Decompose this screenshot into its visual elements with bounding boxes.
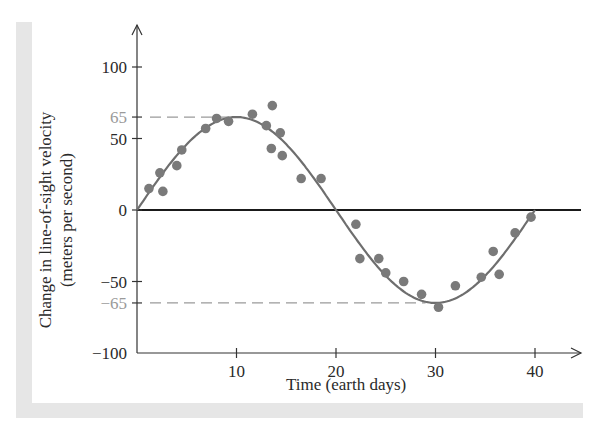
data-point <box>488 247 498 257</box>
data-point <box>355 254 365 264</box>
data-point <box>144 184 154 194</box>
data-point <box>158 187 168 197</box>
data-point <box>316 174 326 184</box>
data-point <box>262 121 272 131</box>
y-tick-label: −100 <box>92 344 127 363</box>
data-point <box>451 281 461 291</box>
x-axis-label: Time (earth days) <box>286 375 406 395</box>
plot-area: 10065500−50−65−10010203040 <box>0 0 608 434</box>
data-point <box>275 128 285 138</box>
x-tick-label: 40 <box>527 362 544 381</box>
y-tick-label: 65 <box>110 108 127 127</box>
reference-lines <box>137 117 581 303</box>
data-point <box>510 228 520 238</box>
y-tick-label: 50 <box>110 130 127 149</box>
data-point <box>399 277 409 287</box>
y-axis-label-line1: Change in line-of-sight velocity <box>35 112 56 329</box>
data-point <box>224 117 234 127</box>
data-point <box>381 268 391 278</box>
y-tick-label: −65 <box>100 294 127 313</box>
data-point <box>434 302 444 312</box>
x-tick-label: 10 <box>228 362 245 381</box>
data-point <box>268 101 278 111</box>
data-point <box>526 212 536 222</box>
data-point <box>374 254 384 264</box>
y-tick-label: −50 <box>100 273 127 292</box>
data-point <box>212 114 222 124</box>
data-point <box>267 144 277 154</box>
data-point <box>476 272 486 282</box>
data-point <box>277 151 287 161</box>
data-point <box>494 270 504 280</box>
y-tick-label: 100 <box>102 58 128 77</box>
x-tick-label: 30 <box>427 362 444 381</box>
y-tick-label: 0 <box>119 201 128 220</box>
y-axis-label: Change in line-of-sight velocity (meters… <box>36 70 76 370</box>
tick-labels: 10065500−50−65−10010203040 <box>92 58 544 381</box>
data-point <box>201 124 211 134</box>
data-point <box>155 168 165 178</box>
y-axis-label-line2: (meters per second) <box>56 112 77 329</box>
chart-figure: 10065500−50−65−10010203040 Change in lin… <box>0 0 608 434</box>
data-point <box>417 290 427 300</box>
data-points <box>144 101 536 312</box>
data-point <box>172 161 182 171</box>
data-point <box>177 145 187 155</box>
axes <box>132 25 581 358</box>
data-point <box>296 174 306 184</box>
data-point <box>351 220 361 230</box>
data-point <box>248 109 258 119</box>
